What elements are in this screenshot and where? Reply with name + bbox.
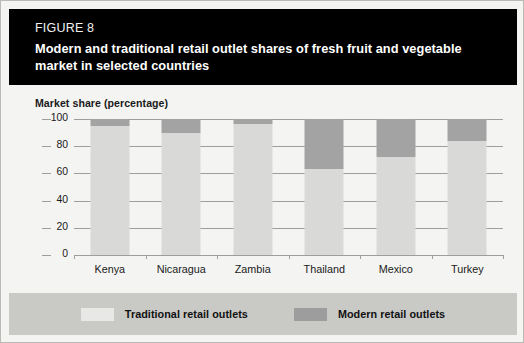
figure-title-text: Modern and traditional retail outlet sha… bbox=[35, 40, 505, 74]
plot-area bbox=[74, 119, 503, 255]
bar-segment-modern[interactable] bbox=[162, 119, 201, 133]
x-axis-labels: KenyaNicaraguaZambiaThailandMexicoTurkey bbox=[74, 263, 503, 275]
stacked-bar[interactable] bbox=[448, 119, 487, 255]
figure-card: FIGURE 8 Modern and traditional retail o… bbox=[0, 0, 524, 343]
y-tick-label: 100 bbox=[9, 112, 68, 123]
stacked-bar[interactable] bbox=[305, 119, 344, 255]
bar-segment-traditional[interactable] bbox=[448, 141, 487, 255]
legend-item-modern: Modern retail outlets bbox=[294, 308, 445, 321]
y-tick-label: 80 bbox=[9, 139, 68, 150]
y-tick-label: 20 bbox=[9, 221, 68, 232]
bar-slot bbox=[217, 119, 289, 255]
y-axis-title: Market share (percentage) bbox=[35, 97, 168, 109]
figure-number-label: FIGURE 8 bbox=[35, 20, 517, 36]
y-tick-label: 60 bbox=[9, 166, 68, 177]
bar-segment-modern[interactable] bbox=[90, 119, 129, 126]
x-axis-label: Kenya bbox=[74, 263, 146, 275]
stacked-bar[interactable] bbox=[233, 119, 272, 255]
y-tick-label: 0 bbox=[9, 248, 68, 259]
bar-slot bbox=[432, 119, 504, 255]
legend-swatch-traditional-icon bbox=[81, 308, 114, 321]
chart-body: Market share (percentage) 020406080100 K… bbox=[9, 85, 517, 293]
x-axis-label: Thailand bbox=[289, 263, 361, 275]
stacked-bar[interactable] bbox=[90, 119, 129, 255]
bar-slot bbox=[74, 119, 146, 255]
x-tick-mark bbox=[289, 255, 290, 259]
bar-group bbox=[74, 119, 503, 255]
bar-segment-modern[interactable] bbox=[305, 119, 344, 169]
bar-segment-traditional[interactable] bbox=[162, 133, 201, 255]
x-axis-label: Nicaragua bbox=[146, 263, 218, 275]
legend-label-traditional: Traditional retail outlets bbox=[125, 308, 248, 320]
bar-segment-traditional[interactable] bbox=[376, 157, 415, 255]
x-tick-mark bbox=[503, 255, 504, 259]
chart-legend: Traditional retail outlets Modern retail… bbox=[9, 293, 517, 335]
x-tick-mark bbox=[74, 255, 75, 259]
legend-item-traditional: Traditional retail outlets bbox=[81, 308, 248, 321]
x-axis-label: Zambia bbox=[217, 263, 289, 275]
bar-segment-traditional[interactable] bbox=[90, 126, 129, 255]
bar-slot bbox=[360, 119, 432, 255]
bar-segment-modern[interactable] bbox=[448, 119, 487, 141]
x-tick-mark bbox=[217, 255, 218, 259]
stacked-bar[interactable] bbox=[162, 119, 201, 255]
stacked-bar[interactable] bbox=[376, 119, 415, 255]
x-tick-mark bbox=[360, 255, 361, 259]
x-axis-label: Turkey bbox=[432, 263, 504, 275]
bar-segment-traditional[interactable] bbox=[305, 169, 344, 255]
bar-segment-modern[interactable] bbox=[376, 119, 415, 157]
legend-swatch-modern-icon bbox=[294, 308, 327, 321]
figure-title-banner: FIGURE 8 Modern and traditional retail o… bbox=[9, 9, 517, 85]
y-tick-label: 40 bbox=[9, 194, 68, 205]
bar-slot bbox=[146, 119, 218, 255]
x-tick-mark bbox=[432, 255, 433, 259]
bar-slot bbox=[289, 119, 361, 255]
bar-segment-traditional[interactable] bbox=[233, 124, 272, 255]
legend-label-modern: Modern retail outlets bbox=[338, 308, 445, 320]
x-tick-mark bbox=[146, 255, 147, 259]
x-axis-label: Mexico bbox=[360, 263, 432, 275]
